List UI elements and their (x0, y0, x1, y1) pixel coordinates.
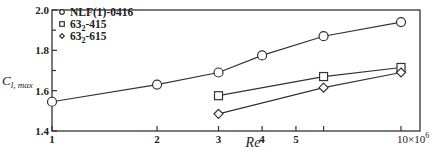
x-tick-label: 10×106 (397, 131, 429, 145)
y-tick-label: 1.6 (35, 85, 49, 97)
x-tick-label: 2 (154, 133, 160, 145)
y-axis-label-main: C (2, 73, 11, 88)
circle-marker-icon (60, 10, 65, 15)
legend: NLF(1)-0416632-415632-615 (60, 6, 134, 45)
x-axis-label: Re (245, 135, 261, 150)
y-axis-label-sub: l, max (11, 80, 33, 90)
circle-marker-icon (258, 51, 267, 60)
circle-marker-icon (48, 97, 57, 106)
circle-marker-icon (153, 80, 162, 89)
diamond-marker-icon (214, 109, 223, 118)
circle-marker-icon (214, 68, 223, 77)
diamond-marker-icon (319, 83, 328, 92)
circle-marker-icon (397, 18, 406, 27)
y-axis-label: Cl, max (2, 73, 33, 90)
circle-marker-icon (319, 32, 328, 41)
y-tick-label: 1.8 (35, 44, 49, 56)
chart: 1.41.61.82.0 1234510×106 NLF(1)-0416632-… (0, 0, 447, 151)
x-tick-label: 5 (293, 133, 299, 145)
x-tick-label: 3 (216, 133, 222, 145)
square-marker-icon (215, 92, 223, 100)
x-axis: 1234510×106 (49, 126, 429, 145)
x-tick-label: 1 (49, 133, 55, 145)
y-axis: 1.41.61.82.0 (35, 4, 57, 137)
legend-label: 632-615 (70, 30, 107, 45)
square-marker-icon (320, 73, 328, 81)
series-diamond (214, 68, 405, 118)
y-tick-label: 1.4 (35, 125, 49, 137)
diamond-marker-icon (60, 34, 65, 39)
square-marker-icon (60, 22, 65, 27)
series-square (215, 63, 405, 99)
y-tick-label: 2.0 (35, 4, 49, 16)
